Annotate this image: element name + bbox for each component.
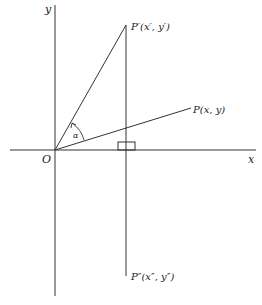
p-double-prime-label: P″(x″, y″) bbox=[130, 271, 174, 282]
origin-label: O bbox=[42, 153, 51, 166]
p-prime-label: P′(x′, y′) bbox=[130, 21, 170, 32]
angle-alpha-label: α bbox=[73, 131, 79, 140]
p-label: P(x, y) bbox=[192, 104, 225, 115]
y-axis-label: y bbox=[44, 3, 52, 16]
x-axis-label: x bbox=[248, 153, 255, 166]
rotation-reflection-diagram: y O x P′(x′, y′) P(x, y) P″(x″, y″) α bbox=[0, 0, 262, 305]
